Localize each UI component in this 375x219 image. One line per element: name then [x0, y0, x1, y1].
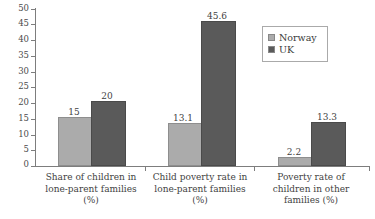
legend-label-norway: Norway: [279, 32, 317, 43]
bar-uk-group1[interactable]: [91, 101, 126, 166]
y-tick-label-50: 50: [7, 4, 29, 13]
bar-value-norway-group1: 15: [54, 107, 94, 117]
legend-item-norway[interactable]: Norway: [268, 32, 322, 43]
y-tick-label-15: 15: [7, 114, 29, 123]
y-tick-15: [31, 119, 35, 120]
x-axis-line: [35, 166, 370, 167]
y-tick-20: [31, 103, 35, 104]
y-tick-0: [31, 166, 35, 167]
y-tick-35: [31, 56, 35, 57]
y-tick-label-25: 25: [7, 82, 29, 91]
x-category-label-3-line1: Poverty rate of: [251, 172, 371, 184]
bar-value-uk-group2: 45.6: [197, 11, 237, 21]
x-category-label-1: Share of children in lone-parent familie…: [31, 172, 151, 207]
x-category-label-1-line3: (%): [31, 195, 151, 207]
bar-value-uk-group1: 20: [87, 91, 127, 101]
y-tick-30: [31, 72, 35, 73]
bar-norway-group1[interactable]: [58, 117, 93, 166]
x-category-label-1-line2: lone-parent families: [31, 184, 151, 196]
plot-area: 50 45 40 35 30 25 20 15 10 5 0 15 20: [0, 0, 375, 219]
x-category-label-2-line3: (%): [140, 195, 260, 207]
bar-norway-group2[interactable]: [168, 123, 203, 166]
x-category-label-3-line3: families (%): [251, 195, 371, 207]
x-tick-separator-1: [145, 166, 146, 171]
y-tick-50: [31, 9, 35, 10]
bar-norway-group3[interactable]: [278, 157, 313, 166]
x-category-label-2-line1: Child poverty rate in: [140, 172, 260, 184]
bar-value-norway-group3: 2.2: [274, 147, 314, 157]
norway-swatch-icon: [268, 34, 275, 41]
x-category-label-3-line2: children in other: [251, 184, 371, 196]
bar-uk-group3[interactable]: [311, 122, 346, 166]
y-tick-label-20: 20: [7, 98, 29, 107]
y-tick-label-45: 45: [7, 19, 29, 28]
bar-value-uk-group3: 13.3: [307, 112, 347, 122]
y-tick-label-5: 5: [7, 145, 29, 154]
y-tick-10: [31, 135, 35, 136]
y-tick-45: [31, 24, 35, 25]
x-category-label-3: Poverty rate of children in other famili…: [251, 172, 371, 207]
x-category-label-2-line2: lone-parent families: [140, 184, 260, 196]
uk-swatch-icon: [268, 46, 275, 53]
y-tick-40: [31, 40, 35, 41]
y-tick-label-0: 0: [7, 160, 29, 169]
y-axis-line: [35, 8, 36, 167]
x-category-label-1-line1: Share of children in: [31, 172, 151, 184]
y-tick-label-30: 30: [7, 67, 29, 76]
legend: Norway UK: [262, 26, 328, 62]
y-tick-5: [31, 150, 35, 151]
bar-chart: 50 45 40 35 30 25 20 15 10 5 0 15 20: [0, 0, 375, 219]
x-tick-end: [369, 166, 370, 171]
legend-label-uk: UK: [279, 44, 294, 55]
bar-uk-group2[interactable]: [201, 21, 236, 166]
x-category-label-2: Child poverty rate in lone-parent famili…: [140, 172, 260, 207]
x-tick-separator-2: [254, 166, 255, 171]
y-tick-label-35: 35: [7, 51, 29, 60]
bar-value-norway-group2: 13.1: [163, 113, 203, 123]
y-tick-25: [31, 87, 35, 88]
y-tick-label-10: 10: [7, 130, 29, 139]
y-tick-label-40: 40: [7, 35, 29, 44]
legend-item-uk[interactable]: UK: [268, 44, 322, 55]
